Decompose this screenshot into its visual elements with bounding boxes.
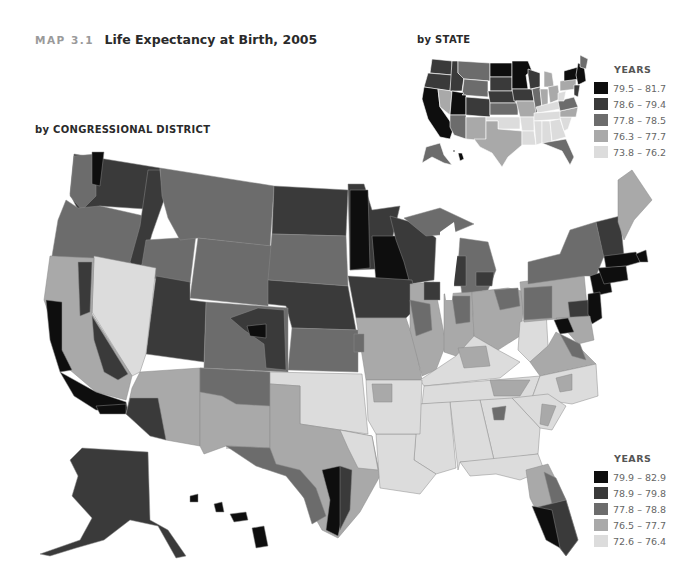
state-ia xyxy=(512,89,534,101)
district-map-subtitle: by CONGRESSIONAL DISTRICT xyxy=(35,124,210,135)
state-legend-item: 77.8 – 78.5 xyxy=(594,112,666,128)
district-legend-title: YEARS xyxy=(614,453,666,464)
state-sd xyxy=(490,77,512,91)
region-pa-phil xyxy=(568,300,590,318)
legend-label: 77.8 – 78.5 xyxy=(613,115,666,126)
region-ar-nw xyxy=(372,384,392,402)
state-legend-item: 78.6 – 79.4 xyxy=(594,96,666,112)
state-mt xyxy=(458,61,490,81)
legend-label: 76.5 – 77.7 xyxy=(613,520,666,531)
region-mi-detroit xyxy=(476,272,494,286)
legend-swatch xyxy=(594,98,608,110)
region-il-chi xyxy=(424,282,440,300)
state-me xyxy=(580,55,588,69)
legend-swatch xyxy=(594,503,608,515)
district-legend: YEARS 79.9 – 82.9 78.9 – 79.8 77.8 – 78.… xyxy=(594,453,666,549)
state-mi xyxy=(544,71,554,87)
district-legend-item: 79.9 – 82.9 xyxy=(594,469,666,485)
district-legend-item: 76.5 – 77.7 xyxy=(594,517,666,533)
state-wa xyxy=(430,59,452,75)
region-hi-kauai xyxy=(190,494,198,502)
region-ak xyxy=(40,448,186,558)
map-number: MAP 3.1 xyxy=(35,34,94,46)
state-legend-title: YEARS xyxy=(614,64,666,75)
region-me xyxy=(618,170,652,240)
region-mo-kc xyxy=(354,334,364,352)
state-map-subtitle: by STATE xyxy=(417,34,470,45)
region-sd xyxy=(268,234,348,286)
state-wy xyxy=(462,79,488,97)
state-wi xyxy=(528,69,540,89)
region-ia xyxy=(348,276,418,318)
state-ar xyxy=(520,117,534,131)
state-co xyxy=(466,97,490,117)
region-nd xyxy=(272,186,348,236)
legend-swatch xyxy=(594,114,608,126)
lake-michigan xyxy=(440,222,458,300)
legend-swatch xyxy=(594,82,608,94)
district-map xyxy=(0,140,691,587)
state-legend-item: 79.5 – 81.7 xyxy=(594,80,666,96)
region-ny xyxy=(528,222,604,284)
legend-label: 78.6 – 79.4 xyxy=(613,99,666,110)
region-ca-sd xyxy=(96,404,126,414)
region-ky-lou xyxy=(458,346,490,368)
district-legend-item: 72.6 – 76.4 xyxy=(594,533,666,549)
legend-swatch xyxy=(594,519,608,531)
region-hi-maui xyxy=(230,512,248,522)
region-hi-big xyxy=(252,526,268,548)
legend-label: 78.9 – 79.8 xyxy=(613,488,666,499)
district-legend-item: 78.9 – 79.8 xyxy=(594,485,666,501)
state-ne xyxy=(488,91,516,103)
state-nj-md xyxy=(574,85,580,97)
state-az xyxy=(450,115,466,139)
district-legend-item: 77.8 – 78.8 xyxy=(594,501,666,517)
region-wy xyxy=(190,238,272,306)
legend-swatch xyxy=(594,487,608,499)
legend-label: 79.9 – 82.9 xyxy=(613,472,666,483)
legend-swatch xyxy=(594,535,608,547)
region-co-core xyxy=(247,324,266,338)
region-pa-west xyxy=(524,286,552,320)
region-ks xyxy=(288,328,358,372)
state-nm xyxy=(466,117,486,141)
map-name: Life Expectancy at Birth, 2005 xyxy=(105,32,318,47)
region-ga-atl xyxy=(492,406,506,420)
legend-label: 72.6 – 76.4 xyxy=(613,536,666,547)
region-hi-oahu xyxy=(214,502,224,512)
legend-swatch xyxy=(594,471,608,483)
region-mn-core xyxy=(350,190,370,270)
region-ca-central xyxy=(78,262,92,316)
legend-label: 79.5 – 81.7 xyxy=(613,83,666,94)
state-ks xyxy=(490,103,518,115)
legend-label: 77.8 – 78.8 xyxy=(613,504,666,515)
state-nd xyxy=(490,63,512,77)
region-mt xyxy=(160,168,274,246)
map-title: MAP 3.1 Life Expectancy at Birth, 2005 xyxy=(35,32,317,47)
